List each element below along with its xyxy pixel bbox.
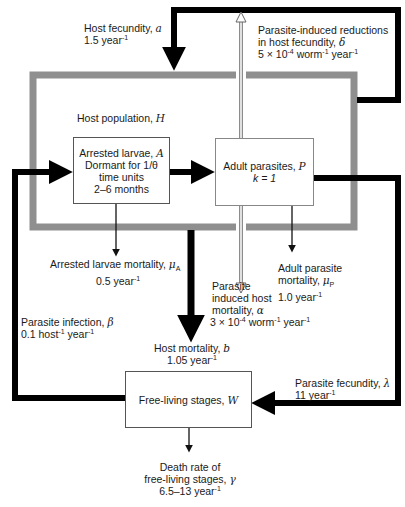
- adult-parasites-title: Adult parasites,: [223, 160, 298, 172]
- arrested-larvae-dormancy: Dormant for 1/θ: [85, 159, 158, 171]
- free-living-symbol: W: [227, 394, 238, 406]
- adult-parasites-symbol: P: [299, 160, 306, 172]
- arrested-larvae-box: Arrested larvae, A Dormant for 1/θ time …: [73, 137, 170, 204]
- arrested-larvae-symbol: A: [156, 147, 164, 159]
- parasite-infection-label: Parasite infection, β 0.1 host-1 year-1: [21, 316, 113, 340]
- host-fecundity-label: Host fecundity, a 1.5 year-1: [84, 22, 162, 46]
- host-population-label: Host population, H: [77, 112, 165, 124]
- free-living-death-label: Death rate of free-living stages, γ 6.5–…: [138, 461, 242, 497]
- larvae-mortality-label: Arrested larvae mortality, μA 0.5 year-1: [50, 258, 180, 287]
- adult-mortality-label: Adult parasite mortality, μP 1.0 year-1: [278, 262, 342, 303]
- parasite-fecundity-label: Parasite fecundity, λ 11 year-1: [295, 377, 390, 401]
- host-mortality-label: Host mortality, b 1.05 year-1: [152, 342, 232, 366]
- free-living-box: Free-living stages, W: [125, 371, 252, 428]
- fecundity-reduction-label: Parasite-induced reductions in host fecu…: [258, 24, 388, 60]
- diagram-canvas: [0, 0, 405, 507]
- arrested-larvae-title: Arrested larvae,: [79, 147, 156, 159]
- arrested-larvae-units: time units: [99, 171, 144, 183]
- arrested-larvae-duration: 2–6 months: [94, 183, 149, 195]
- adult-parasites-k: k = 1: [253, 172, 276, 184]
- free-living-title: Free-living stages,: [139, 394, 228, 406]
- adult-parasites-box: Adult parasites, P k = 1: [215, 138, 314, 206]
